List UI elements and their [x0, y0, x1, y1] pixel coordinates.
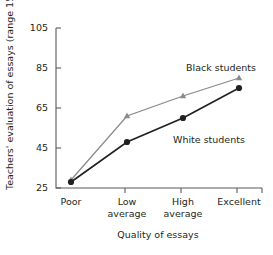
y-tick-label-85: 85	[36, 62, 48, 73]
x-category-label-excellent: Excellent	[217, 196, 261, 207]
series-marker-white-students-low-average	[124, 139, 130, 145]
series-marker-black-students-excellent	[236, 74, 242, 80]
line-chart: Teachers' evaluation of essays (range 15…	[0, 0, 273, 255]
series-annotation-black-students: Black students	[186, 62, 256, 73]
series-marker-white-students-poor	[68, 179, 74, 185]
axis-lines	[56, 28, 262, 188]
series-marker-white-students-excellent	[236, 85, 242, 91]
y-tick-label-45: 45	[36, 142, 48, 153]
y-tick-label-65: 65	[36, 102, 48, 113]
x-category-label-high-average-line2: average	[164, 208, 203, 219]
series-annotation-white-students: White students	[173, 134, 245, 145]
x-category-label-low-average-line1: Low	[118, 196, 137, 207]
x-axis-title: Quality of essays	[117, 229, 198, 240]
series-marker-white-students-high-average	[180, 115, 186, 121]
x-category-label-low-average-line2: average	[108, 208, 147, 219]
x-category-label-high-average-line1: High	[172, 196, 194, 207]
y-axis-title: Teachers' evaluation of essays (range 15…	[4, 0, 15, 191]
x-category-label-poor: Poor	[61, 196, 82, 207]
y-tick-label-105: 105	[30, 22, 48, 33]
y-tick-label-25: 25	[36, 182, 48, 193]
chart-container: Teachers' evaluation of essays (range 15…	[0, 0, 273, 255]
